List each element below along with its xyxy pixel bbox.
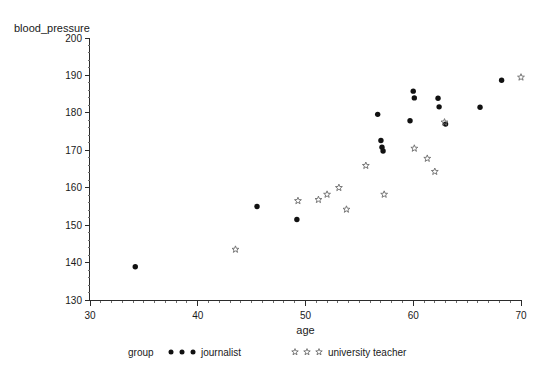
y-tick-label: 130 bbox=[65, 295, 82, 306]
data-point-journalist bbox=[133, 264, 138, 269]
legend-marker-university-teacher bbox=[316, 349, 322, 355]
x-tick-label: 70 bbox=[515, 310, 527, 321]
y-tick-label: 140 bbox=[65, 257, 82, 268]
data-point-journalist bbox=[294, 217, 299, 222]
legend-group: groupjournalistuniversity teacher bbox=[128, 347, 407, 358]
legend-label-university-teacher[interactable]: university teacher bbox=[328, 347, 407, 358]
data-point-journalist bbox=[411, 88, 416, 93]
y-tick-label: 170 bbox=[65, 145, 82, 156]
y-tick-label: 180 bbox=[65, 107, 82, 118]
series-university-teacher bbox=[232, 74, 524, 253]
legend-label-journalist[interactable]: journalist bbox=[200, 347, 241, 358]
data-point-university-teacher bbox=[315, 196, 322, 203]
y-tick-label: 160 bbox=[65, 182, 82, 193]
x-axis-title: age bbox=[296, 324, 314, 336]
x-tick-label: 50 bbox=[300, 310, 312, 321]
data-point-journalist bbox=[254, 204, 259, 209]
data-point-journalist bbox=[477, 105, 482, 110]
data-point-journalist bbox=[412, 95, 417, 100]
data-point-university-teacher bbox=[335, 184, 342, 191]
y-axis-title: blood_pressure bbox=[14, 22, 90, 34]
x-tick-label: 60 bbox=[408, 310, 420, 321]
legend-marker-university-teacher bbox=[292, 349, 298, 355]
data-point-university-teacher bbox=[431, 168, 438, 175]
data-point-university-teacher bbox=[381, 191, 388, 198]
y-tick-label: 150 bbox=[65, 220, 82, 231]
data-points-group bbox=[133, 74, 525, 270]
data-point-university-teacher bbox=[343, 206, 350, 213]
data-point-university-teacher bbox=[362, 162, 369, 169]
data-point-journalist bbox=[435, 96, 440, 101]
data-point-university-teacher bbox=[324, 191, 331, 198]
legend-group-label: group bbox=[128, 347, 154, 358]
series-journalist bbox=[133, 78, 505, 270]
legend-marker-journalist bbox=[180, 350, 185, 355]
data-point-university-teacher bbox=[295, 197, 302, 204]
data-point-university-teacher bbox=[518, 74, 525, 81]
x-tick-label: 30 bbox=[84, 310, 96, 321]
scatter-plot-figure: 1301401501601701801902003040506070blood_… bbox=[0, 0, 544, 369]
y-tick-label: 200 bbox=[65, 33, 82, 44]
data-point-journalist bbox=[375, 112, 380, 117]
data-point-journalist bbox=[378, 138, 383, 143]
legend-marker-journalist bbox=[191, 350, 196, 355]
data-point-university-teacher bbox=[424, 155, 431, 162]
y-tick-label: 190 bbox=[65, 70, 82, 81]
x-tick-label: 40 bbox=[192, 310, 204, 321]
plot-canvas: 1301401501601701801902003040506070blood_… bbox=[0, 0, 544, 369]
data-point-journalist bbox=[499, 78, 504, 83]
data-point-university-teacher bbox=[232, 246, 239, 253]
axes-group: 1301401501601701801902003040506070blood_… bbox=[14, 22, 527, 336]
data-point-journalist bbox=[380, 148, 385, 153]
legend-marker-university-teacher bbox=[304, 349, 310, 355]
data-point-journalist bbox=[436, 104, 441, 109]
legend-marker-journalist bbox=[169, 350, 174, 355]
data-point-journalist bbox=[407, 118, 412, 123]
data-point-university-teacher bbox=[411, 145, 418, 152]
